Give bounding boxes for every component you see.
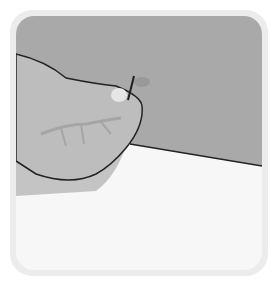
illustration-frame [10, 10, 268, 276]
illustration-panel [16, 16, 262, 270]
hand-pin-illustration [16, 16, 262, 270]
thumbnail [111, 88, 127, 102]
